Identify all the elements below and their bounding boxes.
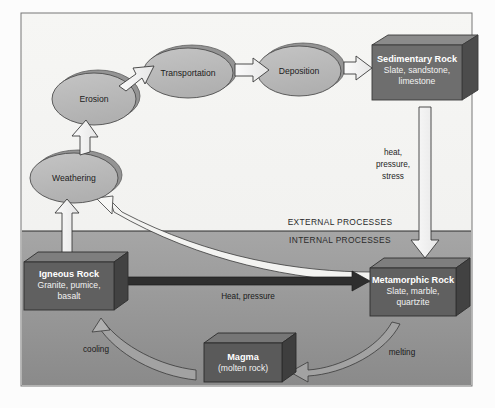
node-transportation-label: Transportation: [160, 68, 215, 78]
edge-label-pressure: pressure,: [376, 160, 410, 169]
band-label-internal: INTERNAL PROCESSES: [289, 235, 391, 245]
edge-label-heat: heat,: [384, 148, 402, 157]
node-erosion-label: Erosion: [79, 94, 108, 104]
node-weathering-label: Weathering: [52, 173, 96, 183]
node-sedimentary-rock[interactable]: Sedimentary Rock Slate, sandstone, limes…: [372, 35, 478, 100]
node-sedimentary-line2: Slate, sandstone,: [384, 65, 450, 75]
node-sedimentary-line3: limestone: [399, 76, 436, 86]
edge-label-stress: stress: [382, 172, 404, 181]
node-magma-line2: (molten rock): [218, 363, 268, 373]
node-igneous-line2: Granite, pumice,: [37, 280, 100, 290]
node-igneous-rock[interactable]: Igneous Rock Granite, pumice, basalt: [24, 252, 128, 310]
node-deposition-label: Deposition: [279, 66, 320, 76]
diagram-canvas: Erosion Transportation Deposition Weathe…: [0, 0, 495, 408]
node-metamorphic-rock[interactable]: Metamorphic Rock Slate, marble, quartzit…: [370, 258, 470, 316]
node-magma-title: Magma: [227, 352, 260, 362]
edge-label-cooling: cooling: [83, 345, 109, 354]
rock-cycle-diagram: Erosion Transportation Deposition Weathe…: [0, 0, 495, 408]
edge-label-melting: melting: [389, 348, 416, 357]
node-metamorphic-line2: Slate, marble,: [386, 286, 439, 296]
node-magma[interactable]: Magma (molten rock): [204, 333, 296, 382]
edge-label-heat-pressure: Heat, pressure: [221, 292, 275, 301]
node-metamorphic-title: Metamorphic Rock: [372, 275, 455, 285]
node-igneous-line3: basalt: [58, 291, 82, 301]
band-label-external: EXTERNAL PROCESSES: [288, 217, 393, 227]
node-metamorphic-line3: quartzite: [397, 297, 430, 307]
node-igneous-title: Igneous Rock: [39, 269, 100, 279]
node-sedimentary-title: Sedimentary Rock: [377, 54, 458, 64]
